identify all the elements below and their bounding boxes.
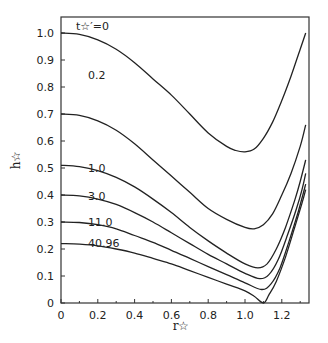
- plot-frame: [61, 17, 309, 303]
- y-tick-label: 0.9: [37, 54, 55, 67]
- x-tick-label: 1.2: [273, 309, 291, 322]
- chart: 00.20.40.60.81.01.2 00.10.20.30.40.50.60…: [0, 0, 328, 343]
- curve-label-0: t☆′=0: [76, 20, 109, 33]
- curve-t-0: [61, 33, 306, 152]
- x-tick-label: 0: [58, 309, 65, 322]
- curve-labels: t☆′=00.21.03.011.040.96: [76, 20, 120, 250]
- y-tick-label: 0.5: [37, 162, 55, 175]
- x-axis-label: r☆: [173, 319, 190, 333]
- y-axis-label: h☆: [9, 151, 23, 170]
- y-tick-label: 0.8: [37, 81, 55, 94]
- plot-border: [61, 17, 309, 303]
- curve-label-40.96: 40.96: [88, 237, 120, 250]
- x-tick-label: 0.2: [89, 309, 107, 322]
- curve-label-3.0: 3.0: [88, 190, 106, 203]
- y-tick-label: 1.0: [37, 27, 55, 40]
- y-tick-label: 0.7: [37, 108, 55, 121]
- y-tick-label: 0.1: [37, 270, 55, 283]
- x-tick-label: 0.4: [126, 309, 144, 322]
- curve-t-1.0: [61, 160, 306, 268]
- y-tick-label: 0: [47, 297, 54, 310]
- curve-label-1.0: 1.0: [88, 162, 106, 175]
- y-tick-label: 0.2: [37, 243, 55, 256]
- x-tick-label: 0.8: [199, 309, 217, 322]
- x-tick-label: 1.0: [236, 309, 254, 322]
- curve-label-11.0: 11.0: [88, 216, 113, 229]
- y-tick-label: 0.4: [37, 189, 55, 202]
- curve-label-0.2: 0.2: [88, 69, 106, 82]
- y-tick-label: 0.6: [37, 135, 55, 148]
- y-tick-label: 0.3: [37, 216, 55, 229]
